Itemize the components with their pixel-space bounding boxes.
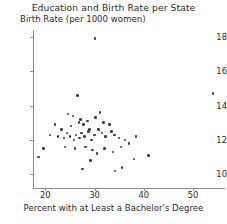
data-point bbox=[147, 154, 150, 157]
data-point bbox=[70, 125, 73, 128]
data-point bbox=[66, 132, 69, 135]
data-point bbox=[104, 135, 107, 138]
data-point bbox=[108, 123, 111, 126]
data-point bbox=[75, 134, 78, 137]
data-point bbox=[60, 128, 63, 131]
data-point bbox=[101, 132, 104, 135]
data-point bbox=[120, 146, 123, 149]
data-point bbox=[212, 92, 215, 95]
data-point bbox=[82, 123, 85, 126]
data-point bbox=[88, 128, 91, 131]
data-point bbox=[80, 132, 83, 135]
scatter-chart-figure: Education and Birth Rate per State Birth… bbox=[0, 0, 227, 224]
chart-title: Education and Birth Rate per State bbox=[0, 2, 227, 13]
x-tick-label: 40 bbox=[132, 190, 156, 200]
data-point bbox=[94, 37, 97, 40]
x-axis-line bbox=[33, 188, 225, 189]
data-point bbox=[74, 147, 77, 150]
data-point bbox=[86, 120, 89, 123]
data-point bbox=[113, 134, 116, 137]
data-point bbox=[42, 147, 45, 150]
data-point bbox=[49, 134, 52, 137]
data-point bbox=[72, 115, 75, 118]
data-point bbox=[94, 116, 97, 119]
y-tick-mark bbox=[30, 140, 33, 141]
x-tick-label: 30 bbox=[83, 190, 107, 200]
y-tick-label: 14 bbox=[201, 101, 227, 111]
data-point bbox=[79, 118, 82, 121]
data-point bbox=[76, 94, 79, 97]
y-tick-mark bbox=[30, 37, 33, 38]
data-point bbox=[84, 146, 87, 149]
data-point bbox=[57, 135, 60, 138]
data-point bbox=[63, 137, 66, 140]
y-tick-label: 16 bbox=[201, 66, 227, 76]
y-tick-mark bbox=[30, 174, 33, 175]
data-point bbox=[110, 130, 113, 133]
y-axis-label: Birth Rate (per 1000 women) bbox=[20, 14, 146, 24]
data-point bbox=[64, 146, 67, 149]
x-tick-label: 20 bbox=[33, 190, 57, 200]
y-tick-label: 10 bbox=[201, 169, 227, 179]
data-point bbox=[78, 137, 81, 140]
data-point bbox=[37, 156, 40, 159]
data-point bbox=[102, 121, 105, 124]
data-point bbox=[112, 151, 115, 154]
data-point bbox=[83, 135, 86, 138]
x-axis-label: Percent with at Least a Bachelor's Degre… bbox=[0, 203, 227, 213]
y-tick-label: 12 bbox=[201, 135, 227, 145]
data-point bbox=[93, 134, 96, 137]
data-point bbox=[121, 166, 124, 169]
data-point bbox=[73, 139, 76, 142]
data-point bbox=[135, 135, 138, 138]
data-point bbox=[87, 130, 90, 133]
data-point bbox=[81, 168, 84, 171]
data-point bbox=[90, 139, 93, 142]
data-point bbox=[114, 170, 117, 173]
data-point bbox=[96, 152, 99, 155]
data-point bbox=[67, 113, 70, 116]
y-axis-line bbox=[33, 30, 34, 189]
y-tick-mark bbox=[30, 71, 33, 72]
data-point bbox=[124, 139, 127, 142]
data-point bbox=[89, 159, 92, 162]
data-point bbox=[99, 111, 102, 114]
data-point bbox=[128, 142, 131, 145]
data-point bbox=[133, 158, 136, 161]
x-tick-label: 50 bbox=[181, 190, 205, 200]
data-point bbox=[118, 137, 121, 140]
data-point bbox=[54, 123, 57, 126]
y-tick-mark bbox=[30, 106, 33, 107]
data-point bbox=[103, 147, 106, 150]
data-point bbox=[91, 149, 94, 152]
data-point bbox=[78, 121, 81, 124]
y-tick-label: 18 bbox=[201, 32, 227, 42]
data-point bbox=[97, 128, 100, 131]
data-point bbox=[69, 135, 72, 138]
